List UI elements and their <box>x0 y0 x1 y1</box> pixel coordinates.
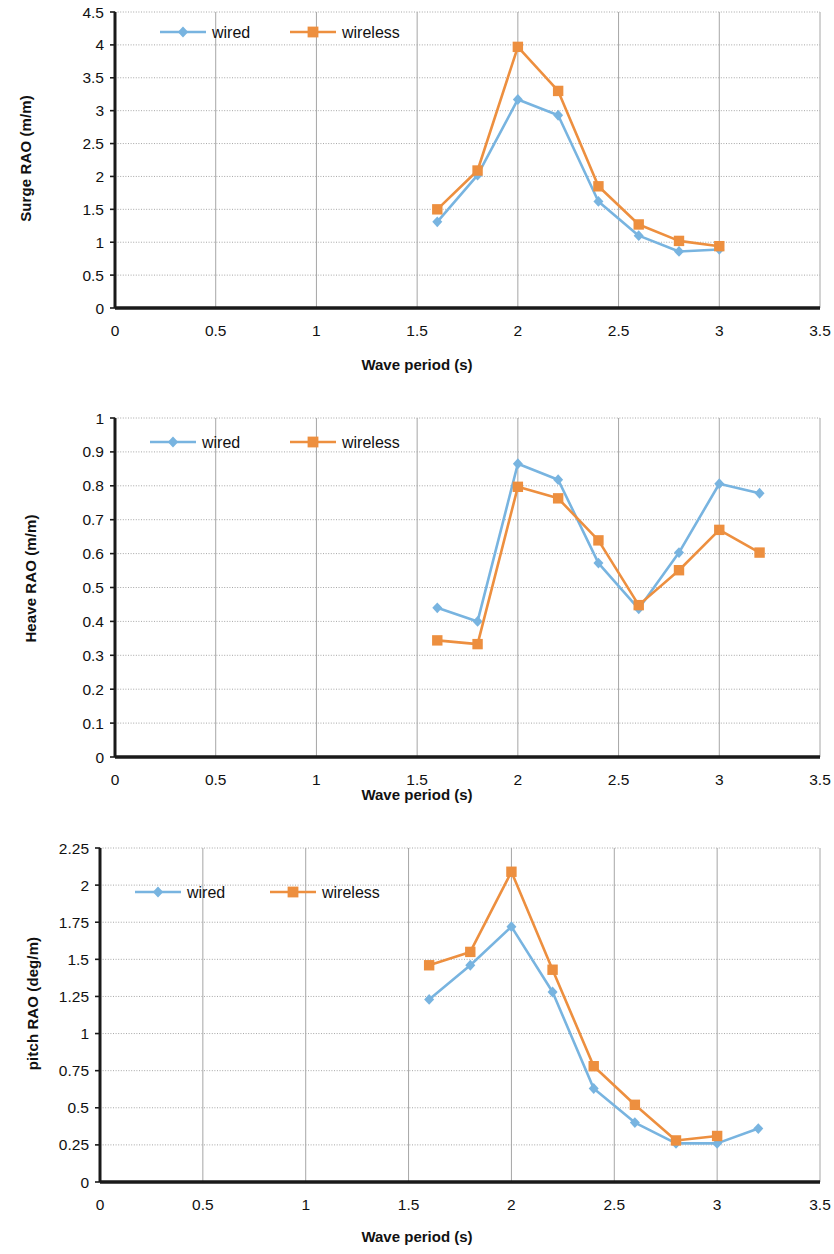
x-tick-label: 0.5 <box>192 1196 214 1213</box>
data-point-wireless <box>506 867 516 877</box>
x-tick-group: 00.511.522.533.5 <box>111 322 831 339</box>
legend-marker-wireless <box>308 27 319 38</box>
x-tick-label: 1 <box>301 1196 310 1213</box>
heave-plot-area: 00.10.20.30.40.50.60.70.80.9100.511.522.… <box>0 400 834 820</box>
x-tick-label: 1 <box>312 322 321 339</box>
x-tick-label: 0 <box>96 1196 105 1213</box>
pitch-chart-svg: 00.250.50.7511.251.51.7522.2500.511.522.… <box>0 820 834 1254</box>
legend-marker-wireless <box>308 437 319 448</box>
x-tick-label: 0.5 <box>205 322 227 339</box>
y-tick-label: 2 <box>80 877 89 894</box>
y-tick-group: 00.511.522.533.544.5 <box>82 4 115 317</box>
data-point-wireless <box>553 86 563 96</box>
y-tick-label: 1 <box>95 410 104 427</box>
data-point-wireless <box>630 1100 640 1110</box>
data-point-wireless <box>513 482 523 492</box>
data-point-wired <box>753 1123 763 1134</box>
legend-marker-wired <box>153 886 163 897</box>
data-point-wireless <box>714 241 724 251</box>
x-tick-label: 1.5 <box>398 1196 420 1213</box>
y-tick-label: 0.5 <box>82 267 104 284</box>
legend-label-wireless: wireless <box>341 434 400 451</box>
surge-chart-svg: 00.511.522.533.544.500.511.522.533.5wire… <box>0 0 834 400</box>
surge-plot-area: 00.511.522.533.544.500.511.522.533.5wire… <box>0 0 834 400</box>
x-tick-label: 3 <box>715 322 724 339</box>
y-tick-label: 0 <box>80 1174 89 1191</box>
y-tick-group: 00.10.20.30.40.50.60.70.80.91 <box>82 410 115 766</box>
surge-x-axis-title: Wave period (s) <box>0 356 834 373</box>
data-point-wireless <box>634 219 644 229</box>
axes <box>115 418 820 757</box>
y-tick-label: 0.8 <box>82 477 104 494</box>
x-tick-label: 2.5 <box>608 322 630 339</box>
x-tick-label: 3.5 <box>809 1196 831 1213</box>
x-tick-label: 0 <box>111 322 120 339</box>
data-point-wired <box>553 110 563 121</box>
pitch-x-axis-title: Wave period (s) <box>0 1228 834 1245</box>
data-point-wireless <box>714 525 724 535</box>
data-point-wireless <box>513 42 523 52</box>
data-point-wired <box>473 616 483 627</box>
legend-marker-wired <box>168 436 178 447</box>
x-tick-label: 2 <box>514 322 523 339</box>
gridlines <box>115 418 820 757</box>
data-point-wireless <box>432 635 442 645</box>
surge-y-axis-title: Surge RAO (m/m) <box>17 79 34 239</box>
legend-marker-wired <box>178 26 188 37</box>
data-point-wireless <box>553 493 563 503</box>
data-point-wireless <box>634 600 644 610</box>
y-tick-label: 2 <box>95 168 104 185</box>
axes <box>115 12 820 308</box>
data-point-wireless <box>589 1061 599 1071</box>
pitch-y-axis-title: pitch RAO (deg/m) <box>24 914 41 1094</box>
x-tick-label: 2.5 <box>604 1196 626 1213</box>
legend-label-wireless: wireless <box>341 24 400 41</box>
data-point-wireless <box>674 236 684 246</box>
y-tick-label: 1.25 <box>59 988 89 1005</box>
y-tick-label: 1.75 <box>59 914 89 931</box>
data-point-wireless <box>671 1135 681 1145</box>
y-tick-label: 0.6 <box>82 545 104 562</box>
series-wireless <box>432 42 724 252</box>
legend-marker-wireless <box>288 887 299 898</box>
y-tick-label: 1.5 <box>67 951 89 968</box>
data-point-wireless <box>712 1131 722 1141</box>
y-tick-label: 0.5 <box>82 579 104 596</box>
y-tick-label: 0.1 <box>82 715 104 732</box>
y-tick-label: 1 <box>95 234 104 251</box>
data-point-wireless <box>432 204 442 214</box>
heave-y-axis-title: Heave RAO (m/m) <box>22 494 39 664</box>
y-tick-label: 0.3 <box>82 647 104 664</box>
x-tick-group: 00.511.522.533.5 <box>96 1196 831 1213</box>
data-point-wired <box>755 488 765 499</box>
gridlines <box>115 12 820 308</box>
y-tick-label: 2.25 <box>59 840 89 857</box>
y-tick-label: 0 <box>95 300 104 317</box>
y-tick-label: 0 <box>95 749 104 766</box>
chart-surge-rao: 00.511.522.533.544.500.511.522.533.5wire… <box>0 0 834 400</box>
y-tick-label: 4 <box>95 36 104 53</box>
data-point-wireless <box>465 947 475 957</box>
x-tick-label: 3.5 <box>809 322 831 339</box>
y-tick-label: 0.7 <box>82 511 104 528</box>
data-point-wireless <box>593 535 603 545</box>
y-tick-label: 0.2 <box>82 681 104 698</box>
data-point-wired <box>674 246 684 257</box>
y-tick-label: 0.4 <box>82 613 104 630</box>
legend-label-wired: wired <box>186 884 225 901</box>
data-point-wired <box>553 474 563 485</box>
chart-pitch-rao: 00.250.50.7511.251.51.7522.2500.511.522.… <box>0 820 834 1254</box>
legend: wiredwireless <box>135 884 380 901</box>
data-point-wired <box>513 458 523 469</box>
y-tick-label: 0.5 <box>67 1099 89 1116</box>
y-tick-label: 0.25 <box>59 1136 89 1153</box>
x-tick-label: 2 <box>507 1196 516 1213</box>
series-wireless <box>424 867 722 1146</box>
y-tick-label: 2.5 <box>82 135 104 152</box>
x-tick-label: 3 <box>713 1196 722 1213</box>
y-tick-group: 00.250.50.7511.251.51.7522.25 <box>59 840 100 1191</box>
series-line-wireless <box>429 872 717 1141</box>
data-point-wireless <box>547 965 557 975</box>
legend-label-wired: wired <box>211 24 250 41</box>
y-tick-label: 3.5 <box>82 69 104 86</box>
